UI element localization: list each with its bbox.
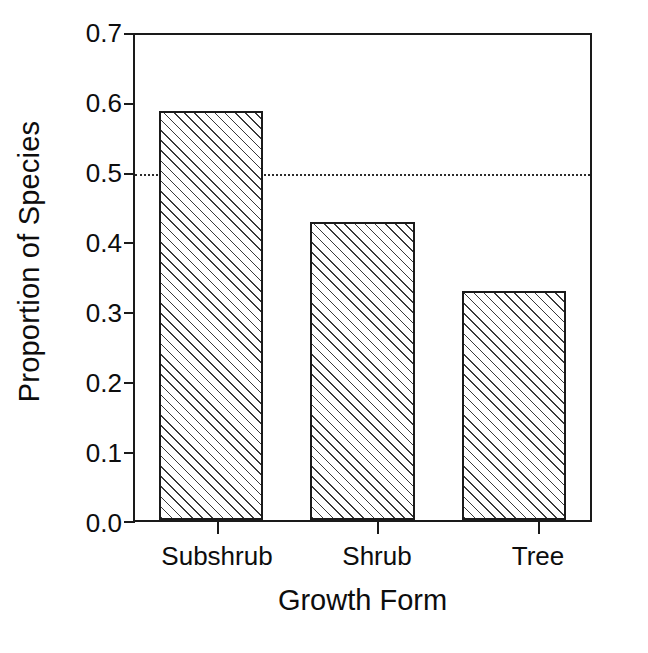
y-axis-tick-labels: 0.7 0.6 0.5 0.4 0.3 0.2 0.1 0.0 [56,0,122,653]
y-tick-label-0.2: 0.2 [56,370,122,396]
bar-shrub[interactable] [310,222,415,520]
y-tick-label-0.5: 0.5 [56,160,122,186]
x-tick-mark-tree [538,522,540,534]
y-tick-label-0.3: 0.3 [56,300,122,326]
x-axis-title: Growth Form [133,583,592,617]
x-tick-label-subshrub: Subshrub [161,541,272,571]
y-tick-label-0.4: 0.4 [56,230,122,256]
y-tick-label-0.6: 0.6 [56,90,122,116]
x-tick-mark-shrub [377,522,379,534]
y-tick-label-0.1: 0.1 [56,440,122,466]
y-axis-title-text: Proportion of Species [14,120,47,401]
plot-area [133,33,592,522]
y-tick-label-0.7: 0.7 [56,20,122,46]
bar-tree[interactable] [462,291,567,520]
bar-subshrub[interactable] [159,111,264,520]
bar-chart-figure: Proportion of Species 0.7 0.6 0.5 0.4 0.… [0,0,648,653]
x-tick-label-shrub: Shrub [342,541,411,571]
y-axis-title: Proportion of Species [0,0,60,522]
y-tick-label-0.0: 0.0 [56,510,122,536]
x-tick-label-tree: Tree [512,541,565,571]
x-tick-mark-subshrub [217,522,219,534]
